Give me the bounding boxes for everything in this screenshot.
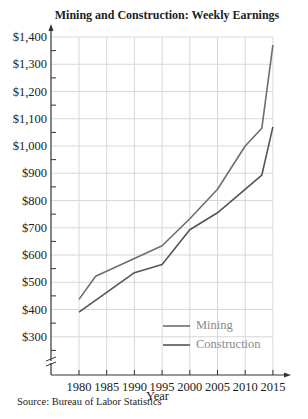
y-axis-arrow-icon	[49, 24, 54, 31]
x-tick-label: 1990	[119, 380, 149, 395]
series-line-construction	[79, 127, 273, 312]
source-note: Source: Bureau of Labor Statistics	[17, 396, 162, 407]
y-tick-label: $300	[0, 330, 47, 344]
legend-label-construction: Construction	[196, 337, 261, 352]
y-tick-label: $1,100	[0, 112, 47, 126]
y-tick-label: $1,400	[0, 30, 47, 44]
y-tick-label: $800	[0, 194, 47, 208]
legend-label-mining: Mining	[196, 318, 233, 333]
x-tick-label: 1980	[64, 380, 94, 395]
x-tick-label: 2005	[203, 380, 233, 395]
y-tick-label: $1,200	[0, 85, 47, 99]
x-axis-arrow-icon	[284, 373, 291, 378]
y-tick-label: $700	[0, 221, 47, 235]
x-tick-label: 2000	[175, 380, 205, 395]
y-tick-label: $1,000	[0, 139, 47, 153]
series-line-mining	[79, 45, 273, 299]
y-tick-label: $500	[0, 275, 47, 289]
y-tick-label: $400	[0, 303, 47, 317]
x-tick-label: 2015	[258, 380, 288, 395]
x-tick-label: 2010	[230, 380, 260, 395]
x-tick-label: 1985	[92, 380, 122, 395]
y-tick-label: $1,300	[0, 57, 47, 71]
y-tick-label: $900	[0, 166, 47, 180]
y-tick-label: $600	[0, 248, 47, 262]
